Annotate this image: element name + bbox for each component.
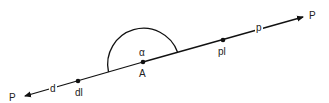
- label-left-point: dl: [75, 87, 83, 98]
- label-left-end: P: [9, 92, 16, 103]
- label-right-end: P: [309, 10, 316, 21]
- point-dl: [76, 79, 81, 84]
- label-right-point: pl: [218, 46, 226, 57]
- main-line-left-part: [25, 62, 143, 96]
- label-angle: α: [139, 47, 145, 58]
- point-a: [141, 60, 146, 65]
- label-center-point: A: [139, 68, 146, 79]
- label-right-segment: p: [256, 22, 262, 33]
- point-pl: [221, 38, 226, 43]
- line-angle-diagram: P d dl α A pl p P: [0, 0, 329, 103]
- label-left-segment: d: [50, 83, 56, 94]
